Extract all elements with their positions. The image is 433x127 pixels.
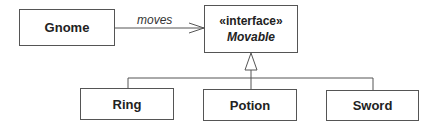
association-label: moves (137, 13, 172, 27)
class-name: Ring (113, 97, 142, 112)
interface-name: Movable (227, 29, 275, 45)
class-sword: Sword (326, 90, 419, 121)
class-ring: Ring (80, 88, 174, 120)
class-gnome: Gnome (19, 9, 115, 46)
hollow-triangle-icon (245, 53, 257, 70)
stereotype-label: «interface» (219, 13, 282, 29)
class-name: Gnome (45, 20, 90, 35)
class-name: Potion (230, 98, 270, 113)
class-name: Sword (353, 98, 393, 113)
interface-movable: «interface» Movable (204, 5, 298, 53)
uml-diagram: moves Gnome «interface» Movable Ring Pot… (0, 0, 433, 127)
class-potion: Potion (203, 89, 297, 121)
realization-tree (128, 53, 373, 90)
